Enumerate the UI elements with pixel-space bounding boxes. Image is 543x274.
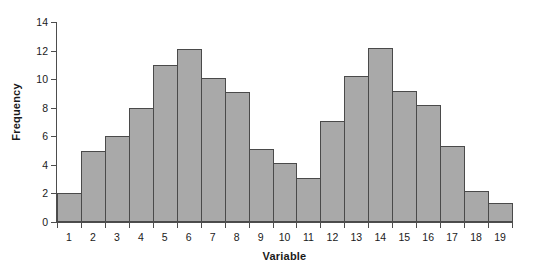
x-axis-tick [488, 223, 489, 228]
x-axis-tick-label: 12 [327, 231, 339, 243]
histogram-bar [129, 108, 154, 222]
x-axis-tick [177, 223, 178, 228]
x-axis-tick-label: 1 [66, 231, 72, 243]
x-axis-tick [392, 223, 393, 228]
x-axis-tick [225, 223, 226, 228]
x-axis-tick-label: 17 [446, 231, 458, 243]
histogram-bar [368, 48, 393, 222]
x-axis-tick-label: 13 [350, 231, 362, 243]
x-axis-tick-label: 7 [210, 231, 216, 243]
histogram-bar [225, 92, 250, 222]
x-axis-tick [105, 223, 106, 228]
y-axis-tick [51, 108, 56, 109]
y-axis-tick-label: 12 [36, 45, 48, 57]
y-axis-tick-label: 2 [42, 187, 48, 199]
histogram-bar [296, 178, 321, 222]
histogram-bar [440, 146, 465, 222]
y-axis-tick [51, 165, 56, 166]
x-axis-tick-label: 11 [303, 231, 314, 243]
histogram-bar [392, 91, 417, 222]
histogram-bar [344, 76, 369, 222]
histogram-bar [57, 193, 82, 222]
y-axis-tick-label: 0 [42, 216, 48, 228]
x-axis-tick-label: 5 [162, 231, 168, 243]
histogram-bar [464, 191, 489, 222]
x-axis-tick-label: 2 [90, 231, 96, 243]
x-axis-tick-label: 16 [422, 231, 434, 243]
x-axis-tick [464, 223, 465, 228]
histogram-bar [320, 121, 345, 222]
x-axis-tick [273, 223, 274, 228]
y-axis-tick [51, 222, 56, 223]
y-axis-tick-label: 10 [36, 73, 48, 85]
histogram-bar [249, 149, 274, 222]
histogram-bar [81, 151, 106, 222]
histogram-bar [105, 136, 130, 222]
x-axis-tick-label: 15 [398, 231, 410, 243]
x-axis-tick [344, 223, 345, 228]
x-axis-tick-label: 19 [494, 231, 506, 243]
x-axis-tick [416, 223, 417, 228]
y-axis-title-label: Frequency [10, 83, 22, 140]
x-axis-tick [249, 223, 250, 228]
y-axis-tick [51, 193, 56, 194]
x-axis-tick [153, 223, 154, 228]
x-axis-tick [129, 223, 130, 228]
x-axis-tick [201, 223, 202, 228]
histogram-bar [177, 49, 202, 222]
histogram-bar [201, 78, 226, 222]
histogram-bar [273, 163, 298, 222]
histogram-bar [416, 105, 441, 222]
plot-area: 02468101214 1234567891011121314151617181… [57, 22, 512, 222]
x-axis-tick-label: 8 [234, 231, 240, 243]
x-axis-tick-label: 9 [258, 231, 264, 243]
y-axis-tick-label: 6 [42, 130, 48, 142]
y-axis-tick-label: 14 [36, 16, 48, 28]
x-axis-tick-label: 4 [138, 231, 144, 243]
histogram-bar [153, 65, 178, 222]
x-axis-line [56, 222, 513, 223]
histogram-bar [488, 203, 513, 222]
x-axis-tick [440, 223, 441, 228]
y-axis-tick [51, 51, 56, 52]
x-axis-tick-label: 14 [374, 231, 386, 243]
x-axis-title: Variable [57, 250, 512, 262]
x-axis-tick [81, 223, 82, 228]
x-axis-tick-label: 18 [470, 231, 482, 243]
x-axis-tick [368, 223, 369, 228]
x-axis-tick-label: 10 [279, 231, 291, 243]
y-axis-title: Frequency [2, 0, 30, 224]
x-axis-tick [296, 223, 297, 228]
x-axis-tick [57, 223, 58, 228]
y-axis-tick [51, 79, 56, 80]
y-axis-tick [51, 22, 56, 23]
x-axis-tick-label: 6 [186, 231, 192, 243]
x-axis-tick [320, 223, 321, 228]
y-axis-tick-label: 4 [42, 159, 48, 171]
x-axis-tick-label: 3 [114, 231, 120, 243]
y-axis-tick-label: 8 [42, 102, 48, 114]
y-axis-tick [51, 136, 56, 137]
histogram-chart: Frequency 02468101214 123456789101112131… [0, 0, 543, 274]
x-axis-tick [512, 223, 513, 228]
